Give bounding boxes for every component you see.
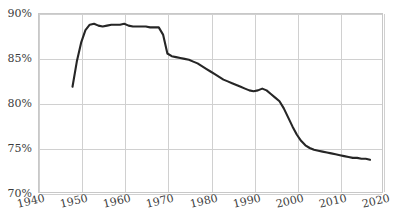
x-tick-label: 1950 — [59, 193, 89, 210]
x-tick-label: 1960 — [102, 193, 132, 210]
x-tick-label: 1980 — [189, 193, 219, 210]
x-tick-label: 1970 — [145, 193, 175, 210]
x-tick-label: 2000 — [275, 193, 305, 210]
line-chart: 90%85%80%75%70% 194019501960197019801990… — [0, 0, 406, 224]
x-tick-label: 2020 — [361, 193, 391, 210]
x-tick-label: 1940 — [16, 193, 46, 210]
x-tick-label: 1990 — [232, 193, 262, 210]
x-tick-label: 2010 — [318, 193, 348, 210]
x-axis-tick-labels: 194019501960197019801990200020102020 — [0, 0, 406, 224]
